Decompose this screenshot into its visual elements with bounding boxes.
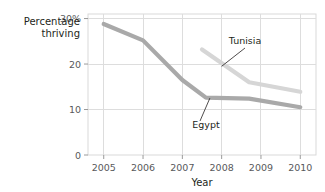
y-axis-title-line2: thriving xyxy=(41,28,80,39)
series-label-egypt: Egypt xyxy=(192,119,220,130)
y-axis-title-line1: Percentage xyxy=(24,16,80,27)
x-tick-label: 2008 xyxy=(210,162,234,173)
y-tick-label: 0 xyxy=(75,150,81,161)
x-tick-label: 2010 xyxy=(288,162,312,173)
x-axis-title: Year xyxy=(190,177,213,188)
plot-area xyxy=(88,14,316,155)
chart-container: 0102030% 200520062007200820092010 Percen… xyxy=(0,0,325,192)
x-tick-label: 2006 xyxy=(131,162,155,173)
x-tick-label: 2007 xyxy=(170,162,194,173)
series-label-tunisia: Tunisia xyxy=(228,35,261,46)
y-tick-label: 10 xyxy=(69,104,81,115)
x-tick-label: 2005 xyxy=(92,162,116,173)
x-tick-label: 2009 xyxy=(249,162,273,173)
line-chart: 0102030% 200520062007200820092010 Percen… xyxy=(0,0,325,192)
x-axis-ticks: 200520062007200820092010 xyxy=(92,155,313,173)
y-tick-label: 20 xyxy=(69,59,81,70)
